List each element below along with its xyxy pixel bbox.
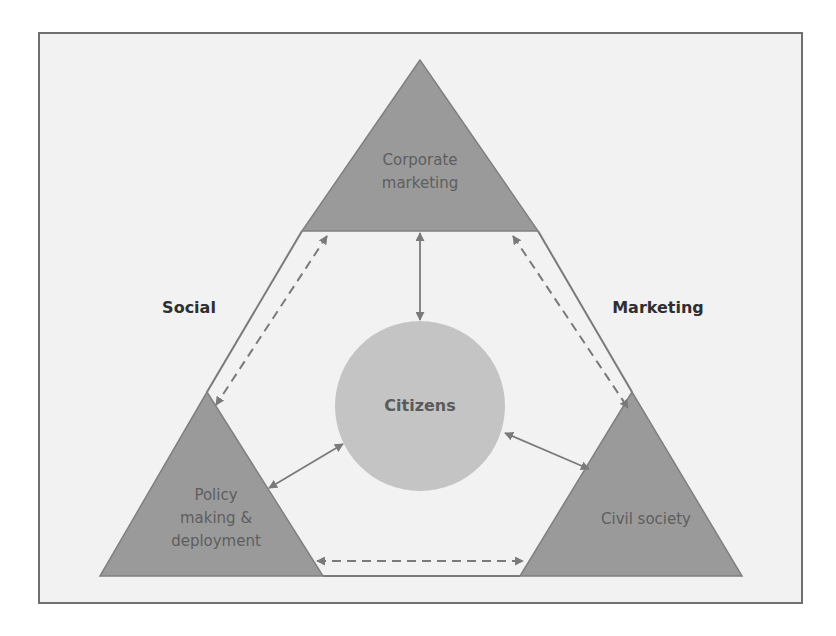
label-policy-line2: making & <box>180 509 252 527</box>
label-policy-line3: deployment <box>171 532 261 550</box>
arrow-civil-citizens <box>505 433 589 469</box>
label-corporate-line2: marketing <box>382 174 458 192</box>
diagram-canvas: Corporate marketing Policy making & depl… <box>0 0 836 636</box>
node-corporate-marketing <box>302 60 538 231</box>
label-social: Social <box>162 298 216 317</box>
label-policy-line1: Policy <box>194 486 237 504</box>
arrow-corporate-policy <box>216 236 327 405</box>
node-civil-society <box>520 392 742 576</box>
label-marketing: Marketing <box>612 298 704 317</box>
label-civil-society: Civil society <box>601 510 691 528</box>
arrow-corporate-civil <box>513 236 628 408</box>
arrow-policy-citizens <box>269 444 343 488</box>
label-corporate-line1: Corporate <box>383 151 458 169</box>
outline-left-edge <box>207 231 302 392</box>
label-citizens: Citizens <box>384 396 455 415</box>
